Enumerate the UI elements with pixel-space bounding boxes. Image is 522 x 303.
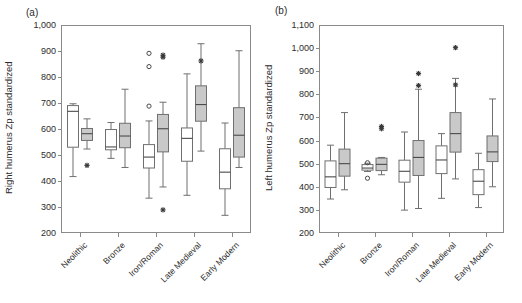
outlier-star <box>453 45 458 50</box>
boxplot-open-bronze <box>362 161 373 181</box>
box-iqr <box>158 114 169 151</box>
boxplot-open-neolithic <box>68 104 79 177</box>
box-iqr <box>450 113 461 153</box>
outlier-circle <box>147 104 151 108</box>
boxplot-open-late-medieval <box>182 74 193 195</box>
box-iqr <box>182 128 193 161</box>
outlier-star <box>198 58 203 63</box>
outlier-star <box>84 163 89 168</box>
boxplot-open-iron-roman <box>399 132 410 210</box>
outlier-circle <box>147 51 151 55</box>
box-iqr <box>413 141 424 176</box>
outlier-star <box>160 53 165 58</box>
panel-a: (a) Right humerus Zp standardized 200300… <box>0 0 261 303</box>
boxplot-shaded-late-medieval <box>450 45 461 179</box>
boxplot-open-neolithic <box>325 145 336 199</box>
box-iqr <box>362 165 373 171</box>
boxplot-shaded-iron-roman <box>158 53 169 213</box>
boxplot-open-bronze <box>106 123 117 159</box>
boxplot-shaded-neolithic <box>339 113 350 190</box>
box-iqr <box>144 145 155 168</box>
panel-b-box-layer <box>261 0 522 303</box>
box-iqr <box>234 108 245 157</box>
boxplot-shaded-late-medieval <box>196 44 207 151</box>
panel-b: (b) Left humerus Zp standardized 2003004… <box>261 0 522 303</box>
boxplot-open-early-modern <box>473 153 484 207</box>
boxplot-open-late-medieval <box>436 134 447 199</box>
boxplot-shaded-early-modern <box>487 99 498 187</box>
outlier-circle <box>147 65 151 69</box>
box-iqr <box>487 136 498 162</box>
box-iqr <box>473 170 484 195</box>
outlier-star <box>379 124 384 129</box>
boxplot-shaded-iron-roman <box>413 71 424 209</box>
box-iqr <box>325 161 336 188</box>
outlier-star <box>416 83 421 88</box>
box-iqr <box>339 149 350 176</box>
outlier-star <box>453 82 458 87</box>
boxplot-shaded-bronze <box>376 124 387 175</box>
boxplot-shaded-early-modern <box>234 51 245 168</box>
box-iqr <box>220 149 231 189</box>
boxplot-shaded-neolithic <box>82 119 93 168</box>
boxplot-open-iron-roman <box>144 51 155 198</box>
outlier-circle <box>365 176 369 180</box>
box-iqr <box>196 86 207 121</box>
outlier-star <box>416 71 421 76</box>
box-iqr <box>82 128 93 140</box>
boxplot-open-early-modern <box>220 123 231 215</box>
boxplot-shaded-bronze <box>120 89 131 167</box>
figure-root: (a) Right humerus Zp standardized 200300… <box>0 0 522 303</box>
outlier-star <box>160 207 165 212</box>
